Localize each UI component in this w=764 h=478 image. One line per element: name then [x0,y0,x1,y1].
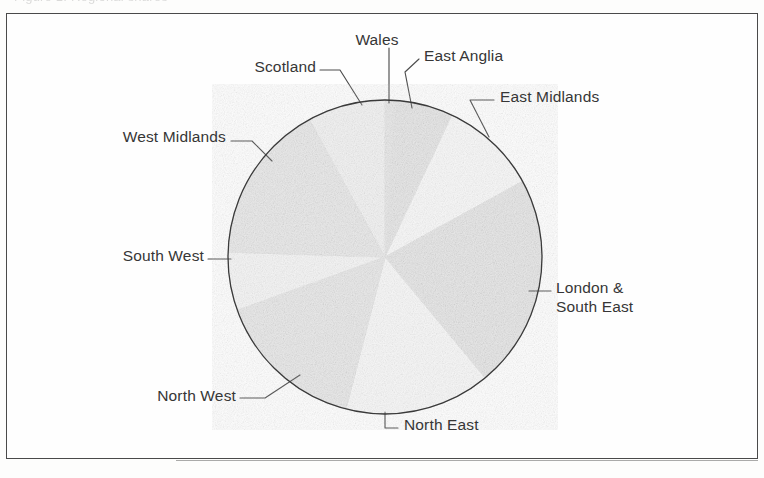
pie-label-east-midlands: East Midlands [500,88,648,107]
pie-label-north-east: North East [404,416,520,435]
pie-label-wales: Wales [338,31,416,50]
pie-slices-group [228,100,542,414]
pie-label-scotland: Scotland [212,58,316,77]
leader-line-east-anglia [405,59,419,108]
pie-label-north-west: North West [108,387,236,406]
pie-chart: Wales East Anglia East Midlands London &… [0,0,764,478]
leader-line-scotland [320,70,362,105]
pie-label-london-south-east: London & South East [556,279,680,317]
chart-page: Figure 1. Regional shares [0,0,764,478]
pie-chart-svg [0,0,764,478]
pie-label-east-anglia: East Anglia [424,47,556,66]
pie-label-south-west: South West [84,247,204,266]
pie-label-west-midlands: West Midlands [74,128,226,147]
